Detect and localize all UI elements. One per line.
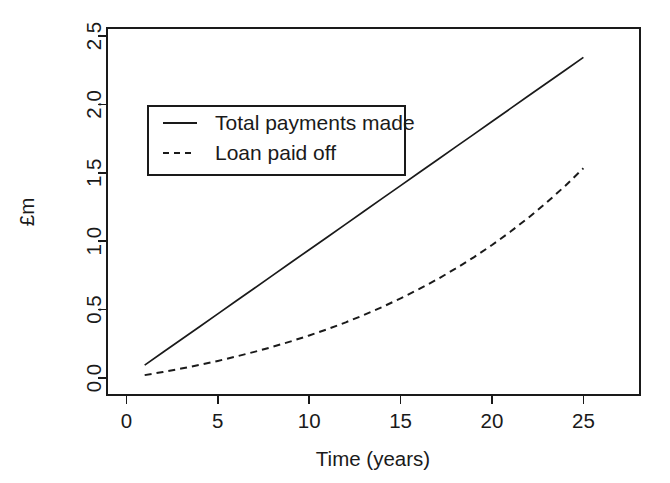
legend: Total payments made Loan paid off (148, 106, 415, 175)
x-tick-label-3: 15 (389, 409, 412, 432)
x-axis-ticks (126, 395, 583, 404)
x-tick-label-0: 0 (121, 409, 132, 432)
chart-canvas: 0.0 0.5 1.0 1.5 2.0 2.5 £m 0 5 10 15 20 … (0, 0, 670, 483)
y-tick-label-2: 1.0 (82, 227, 105, 256)
x-tick-label-5: 25 (572, 409, 595, 432)
x-axis-tick-labels: 0 5 10 15 20 25 (121, 409, 595, 432)
x-tick-label-1: 5 (212, 409, 223, 432)
x-tick-label-4: 20 (481, 409, 504, 432)
y-axis-title: £m (15, 198, 38, 226)
y-axis-ticks (98, 36, 107, 378)
legend-label-1: Loan paid off (215, 141, 336, 164)
y-axis-tick-labels: 0.0 0.5 1.0 1.5 2.0 2.5 (82, 22, 105, 393)
x-tick-label-2: 10 (298, 409, 321, 432)
plot-frame (107, 28, 640, 395)
y-tick-label-0: 0.0 (82, 364, 105, 393)
y-tick-label-5: 2.5 (82, 22, 105, 51)
series-line-total-payments-made (145, 57, 584, 365)
y-tick-label-1: 0.5 (82, 295, 105, 324)
y-tick-label-4: 2.0 (82, 90, 105, 119)
y-tick-label-3: 1.5 (82, 159, 105, 188)
series-line-loan-paid-off (145, 168, 584, 375)
legend-label-0: Total payments made (215, 111, 415, 134)
x-axis-title: Time (years) (316, 447, 430, 470)
chart-figure: 0.0 0.5 1.0 1.5 2.0 2.5 £m 0 5 10 15 20 … (0, 0, 670, 483)
